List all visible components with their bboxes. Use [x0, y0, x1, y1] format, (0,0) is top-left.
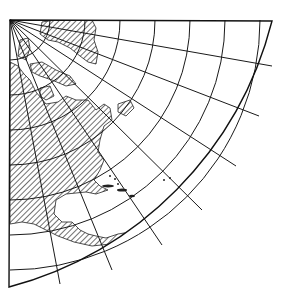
north-america-mainland: [10, 62, 140, 246]
south-america: [138, 144, 236, 252]
greenland: [40, 19, 98, 64]
map-projection: [0, 0, 281, 289]
